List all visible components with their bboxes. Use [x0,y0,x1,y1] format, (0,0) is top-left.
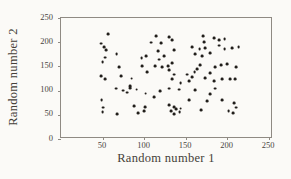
data-point [130,77,133,80]
data-point [198,48,201,51]
y-tick-label: 0 [0,134,53,143]
y-tick-mark [58,18,61,19]
data-point [199,64,202,67]
data-point [171,78,174,81]
data-point [209,72,212,75]
x-tick-label: 150 [170,141,200,150]
data-point [126,91,129,94]
data-point [172,112,175,115]
data-point [101,61,104,64]
data-point [178,111,181,114]
data-point [171,62,174,65]
data-point [143,110,146,113]
data-point [158,58,161,61]
data-point [209,93,212,96]
data-point [140,57,143,60]
data-point [141,65,144,68]
data-point [133,105,136,108]
data-point [118,65,121,68]
y-tick-label: 150 [0,61,53,70]
data-point [223,38,226,41]
data-point [231,47,234,50]
data-point [237,46,240,49]
data-point [175,108,178,111]
plot-frame [60,17,272,138]
data-point [116,112,119,115]
data-point [223,48,226,51]
data-point [104,78,107,81]
data-point [187,80,190,83]
y-tick-mark [58,139,61,140]
data-point [128,84,131,87]
data-point [145,54,148,57]
data-point [212,37,215,40]
data-point [187,99,190,102]
data-point [102,106,105,109]
data-point [101,110,104,113]
data-point [217,44,220,47]
data-point [172,73,175,76]
data-point [150,41,153,44]
data-point [221,78,224,81]
y-tick-label: 200 [0,37,53,46]
data-point [155,35,158,38]
y-tick-mark [58,42,61,43]
data-point [128,87,131,90]
data-point [231,111,234,114]
data-point [194,89,197,92]
data-point [168,35,171,38]
data-point [114,87,117,90]
y-tick-label: 100 [0,85,53,94]
data-point [160,42,163,45]
data-point [227,110,230,113]
data-point [146,70,149,73]
data-point [191,76,194,79]
data-point [104,56,107,59]
data-point [119,75,122,78]
data-point [137,111,140,114]
data-point [214,87,217,90]
data-point [214,65,217,68]
y-tick-label: 250 [0,13,53,22]
data-point [168,87,171,90]
data-point [177,88,180,91]
data-point [153,95,156,98]
data-point [200,109,203,112]
data-point [153,65,156,68]
data-point [99,42,102,45]
data-point [206,99,209,102]
data-point [186,73,189,76]
data-point [144,92,147,95]
data-point [209,51,212,54]
data-point [193,71,196,74]
data-point [115,52,118,55]
data-point [196,67,199,70]
data-point [122,89,125,92]
y-tick-label: 50 [0,109,53,118]
data-point [226,63,229,66]
data-point [157,50,160,53]
data-point [107,33,110,36]
data-point [235,106,238,109]
data-point [201,54,204,57]
scatter-figure: Random number 2 Random number 1 50100150… [0,0,291,179]
data-point [191,46,194,49]
data-point [233,102,236,105]
data-point [167,65,170,68]
data-point [204,77,207,80]
x-axis-title: Random number 1 [60,151,272,166]
data-point [163,55,166,58]
data-point [204,47,207,50]
data-point [104,49,107,52]
data-point [202,35,205,38]
data-point [179,81,182,84]
data-point [135,88,138,91]
data-point [158,90,161,93]
data-point [171,39,174,42]
x-tick-label: 100 [129,141,159,150]
data-point [168,104,171,107]
data-point [194,52,197,55]
data-point [161,65,164,68]
data-point [229,78,232,81]
y-tick-mark [58,91,61,92]
